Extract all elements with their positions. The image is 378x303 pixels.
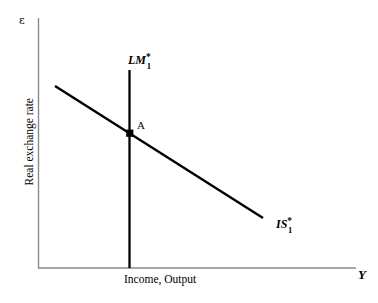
- lm-curve-label: LM*1: [128, 52, 151, 69]
- plot-canvas: [0, 0, 378, 303]
- point-a-label: A: [137, 120, 145, 131]
- is-curve-label: IS*1: [276, 216, 292, 233]
- is-curve-label-base: IS: [276, 217, 287, 231]
- y-axis-title: Real exchange rate: [24, 72, 36, 212]
- is-curve: [55, 86, 263, 218]
- x-axis-title: Income, Output: [124, 274, 196, 286]
- x-axis-symbol-y: Y: [358, 268, 366, 281]
- point-a-marker: [126, 130, 133, 137]
- economics-diagram-figure: ε Real exchange rate Income, Output Y LM…: [0, 0, 378, 303]
- lm-curve-label-base: LM: [128, 53, 146, 67]
- is-curve-label-subscript: 1: [288, 225, 292, 235]
- y-axis-symbol-epsilon: ε: [19, 15, 25, 26]
- lm-curve-label-subscript: 1: [147, 61, 151, 71]
